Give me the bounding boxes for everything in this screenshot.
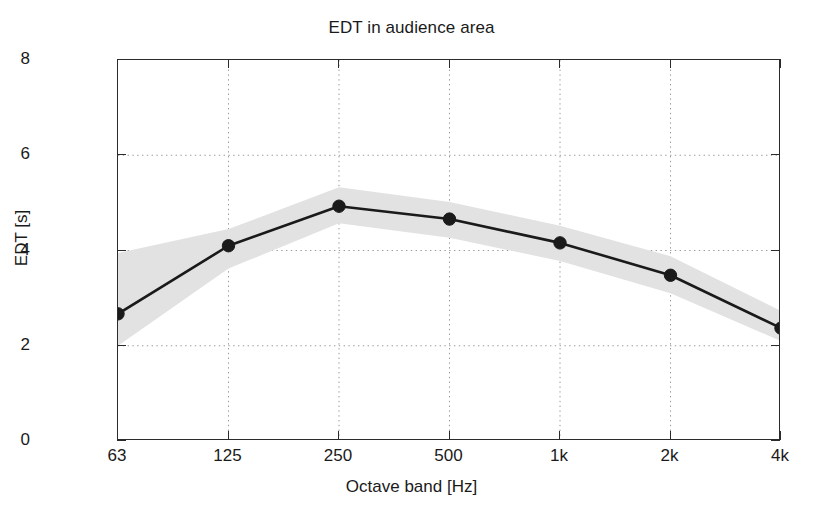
chart-title: EDT in audience area xyxy=(0,18,823,38)
x-tick-mark xyxy=(338,431,339,440)
x-tick-mark-top xyxy=(670,59,671,68)
data-point xyxy=(443,213,455,225)
data-point xyxy=(664,269,676,281)
x-tick-mark-top xyxy=(559,59,560,68)
y-tick-mark xyxy=(117,440,126,441)
y-tick-label: 2 xyxy=(0,336,30,353)
y-tick-label: 8 xyxy=(0,50,30,67)
y-tick-mark-right xyxy=(771,59,780,60)
x-tick-label: 63 xyxy=(82,447,152,464)
x-tick-mark xyxy=(117,431,118,440)
plot-inner xyxy=(118,60,779,439)
x-tick-mark xyxy=(228,431,229,440)
x-tick-mark xyxy=(449,431,450,440)
data-point xyxy=(222,240,234,252)
y-tick-mark xyxy=(117,250,126,251)
x-axis-label: Octave band [Hz] xyxy=(0,477,823,497)
x-tick-mark-top xyxy=(780,59,781,68)
figure-canvas: EDT in audience area EDT [s] 02468 63125… xyxy=(0,0,823,523)
y-tick-label: 6 xyxy=(0,145,30,162)
y-tick-mark-right xyxy=(771,250,780,251)
y-tick-mark-right xyxy=(771,440,780,441)
data-point xyxy=(554,237,566,249)
y-tick-label: 4 xyxy=(0,241,30,258)
x-tick-label: 1k xyxy=(524,447,594,464)
x-tick-mark xyxy=(780,431,781,440)
plot-area xyxy=(117,59,780,440)
x-tick-label: 125 xyxy=(193,447,263,464)
x-tick-mark-top xyxy=(338,59,339,68)
x-tick-mark xyxy=(670,431,671,440)
x-tick-label: 2k xyxy=(635,447,705,464)
confidence-band xyxy=(118,187,779,346)
y-tick-mark-right xyxy=(771,345,780,346)
x-tick-mark-top xyxy=(117,59,118,68)
y-tick-label: 0 xyxy=(0,431,30,448)
y-tick-mark xyxy=(117,154,126,155)
x-tick-mark-top xyxy=(449,59,450,68)
plot-svg xyxy=(118,60,779,439)
x-tick-label: 4k xyxy=(745,447,815,464)
y-tick-mark xyxy=(117,345,126,346)
x-tick-label: 500 xyxy=(414,447,484,464)
data-point xyxy=(333,200,345,212)
y-axis-label: EDT [s] xyxy=(12,178,32,298)
x-tick-label: 250 xyxy=(303,447,373,464)
x-tick-mark xyxy=(559,431,560,440)
y-tick-mark xyxy=(117,59,126,60)
y-tick-mark-right xyxy=(771,154,780,155)
x-tick-mark-top xyxy=(228,59,229,68)
